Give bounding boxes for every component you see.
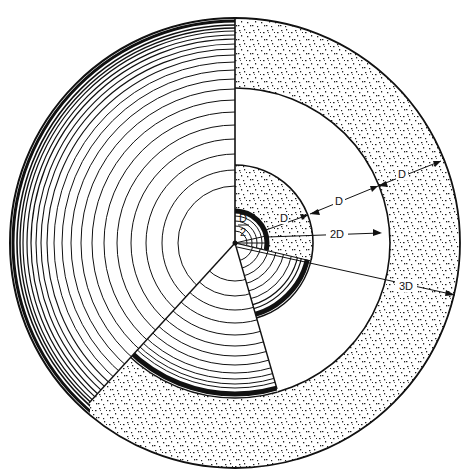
concentric-rings-diagram: D 2 D D D 2D 3D xyxy=(0,0,465,474)
svg-text:D: D xyxy=(335,195,343,207)
svg-text:D: D xyxy=(398,168,406,180)
svg-text:2D: 2D xyxy=(330,228,344,240)
svg-text:2: 2 xyxy=(240,226,246,238)
svg-text:D: D xyxy=(280,212,288,224)
svg-text:3D: 3D xyxy=(399,280,413,292)
center-point xyxy=(233,241,238,246)
svg-text:D: D xyxy=(239,212,247,224)
